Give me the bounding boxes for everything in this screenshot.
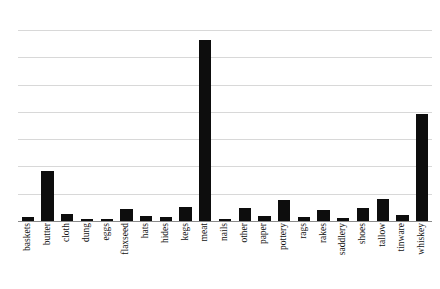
- bar: [337, 218, 349, 221]
- bar: [199, 40, 211, 221]
- bar: [160, 217, 172, 221]
- bar: [101, 219, 113, 221]
- bar: [278, 200, 290, 221]
- bar: [416, 114, 428, 221]
- bar: [41, 171, 53, 221]
- x-tick-label: other: [240, 223, 250, 243]
- x-tick-label: eggs: [102, 223, 112, 240]
- x-tick-label: butter: [43, 223, 53, 245]
- bar: [298, 217, 310, 221]
- x-tick-label: dung: [82, 223, 92, 242]
- bar: [140, 216, 152, 221]
- x-tick-label: rakes: [319, 223, 329, 243]
- bar: [81, 219, 93, 222]
- x-tick-label: whiskey: [417, 223, 427, 255]
- bar: [120, 209, 132, 221]
- bar: [396, 215, 408, 221]
- x-axis-line: [18, 221, 432, 222]
- x-tick-label: tinware: [397, 223, 407, 252]
- x-tick-label: cloth: [62, 223, 72, 242]
- x-tick-label: tallow: [378, 223, 388, 247]
- x-tick-label: hides: [161, 223, 171, 243]
- x-tick-label: saddlery: [338, 223, 348, 255]
- bar: [357, 208, 369, 221]
- x-tick-label: rags: [299, 223, 309, 239]
- x-tick-label: paper: [259, 223, 269, 244]
- x-tick-label: pottery: [279, 223, 289, 250]
- bar: [258, 216, 270, 221]
- bar: [61, 214, 73, 221]
- x-tick-labels: basketsbutterclothdungeggsflaxseedhatshi…: [18, 223, 432, 287]
- bar: [377, 199, 389, 221]
- x-tick-label: hats: [141, 223, 151, 238]
- x-tick-label: kegs: [181, 223, 191, 240]
- bar: [22, 217, 34, 221]
- x-tick-label: shoes: [358, 223, 368, 244]
- bar: [179, 207, 191, 221]
- bar: [317, 210, 329, 221]
- bar: [239, 208, 251, 221]
- bar: [219, 219, 231, 221]
- bar-chart: basketsbutterclothdungeggsflaxseedhatshi…: [0, 0, 440, 289]
- x-tick-label: nails: [220, 223, 230, 241]
- bars-layer: [18, 30, 432, 221]
- x-tick-label: flaxseed: [121, 223, 131, 255]
- x-tick-label: meat: [200, 223, 210, 241]
- x-tick-label: baskets: [23, 223, 33, 251]
